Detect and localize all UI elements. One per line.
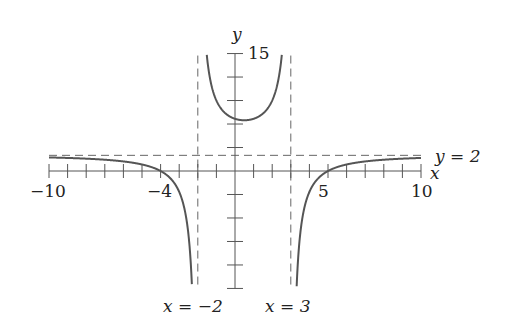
x-tick-label-minus-10: −10 xyxy=(30,181,66,201)
x-tick-label-10: 10 xyxy=(411,181,433,201)
curve-branch xyxy=(207,55,282,120)
y-tick-label-15: 15 xyxy=(248,43,270,63)
rational-function-plot: y 15 x y = 2 −10 −4 5 10 x = −2 x = 3 xyxy=(0,0,517,328)
horizontal-asymptote-label: y = 2 xyxy=(434,146,480,166)
x-tick-label-minus-4: −4 xyxy=(147,181,172,201)
axes xyxy=(49,54,421,289)
vertical-asymptote-right-label: x = 3 xyxy=(265,296,310,316)
vertical-asymptote-left-label: x = −2 xyxy=(163,296,223,316)
x-tick-label-5: 5 xyxy=(318,181,329,201)
y-axis-label: y xyxy=(231,24,242,44)
curve-branch xyxy=(49,157,192,284)
x-axis-label: x xyxy=(430,163,440,183)
